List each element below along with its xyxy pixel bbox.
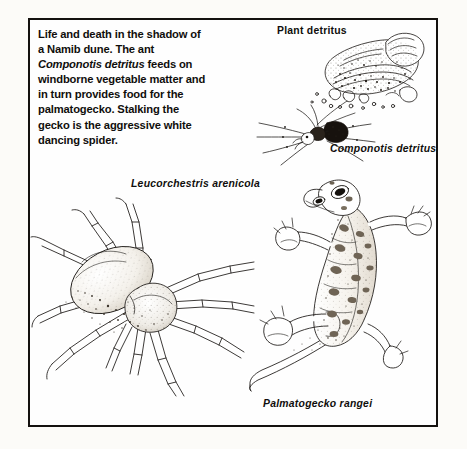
illustration-page: Life and death in the shadow of a Namib … [0,0,467,449]
spider-illustration [30,196,255,396]
caption-text-before: Life and death in the shadow of a Namib … [38,28,201,55]
label-spider-species: Leucorchestris arenicola [131,178,260,189]
caption-species-name: Componotis detritus [38,58,145,70]
figure-caption: Life and death in the shadow of a Namib … [38,27,228,148]
ant-illustration [255,95,390,165]
caption-text-after: feeds on windborne vegetable matter and … [38,58,205,145]
gecko-illustration [248,168,438,403]
